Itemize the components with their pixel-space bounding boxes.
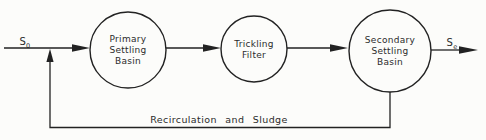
- node-trickling-filter: [221, 16, 287, 82]
- node-secondary-label: SecondarySettlingBasin: [365, 35, 416, 67]
- treatment-process-diagram: S0 PrimarySettlingBasin TricklingFilter …: [0, 0, 486, 140]
- effluent-arrowhead-icon: [459, 46, 478, 54]
- node-trickling-label: TricklingFilter: [233, 39, 274, 60]
- effluent-label: Se: [447, 37, 458, 51]
- node-primary-label: PrimarySettlingBasin: [109, 34, 146, 66]
- connector-arrowhead-2-icon: [330, 44, 348, 52]
- diagram-canvas: S0 PrimarySettlingBasin TricklingFilter …: [0, 0, 486, 140]
- connector-arrowhead-1-icon: [203, 44, 221, 52]
- influent-arrowhead-icon: [72, 44, 90, 52]
- recirculation-label: Recirculation and Sludge: [150, 114, 288, 125]
- recirculation-arrowhead-icon: [46, 49, 53, 62]
